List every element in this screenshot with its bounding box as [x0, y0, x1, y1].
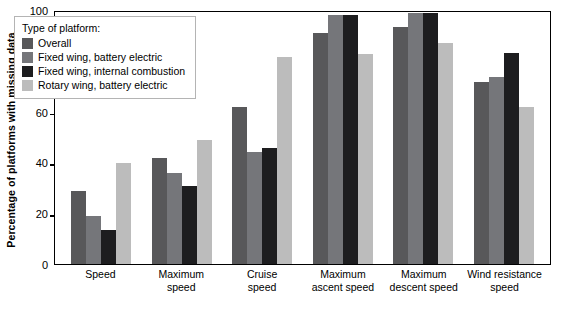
x-axis-tick-label: Maximum ascent speed: [302, 268, 383, 293]
x-axis-tick-label: Speed: [60, 268, 141, 293]
bar: [438, 43, 453, 264]
bar: [519, 107, 534, 264]
bar: [247, 152, 262, 264]
bar-chart: Percentage of platforms with missing dat…: [0, 0, 561, 317]
bar: [277, 57, 292, 264]
bar: [152, 158, 167, 264]
bar: [101, 230, 116, 264]
legend-swatch-icon: [22, 66, 33, 77]
bar: [86, 216, 101, 264]
legend-label: Fixed wing, battery electric: [38, 51, 162, 63]
bar: [116, 163, 131, 264]
y-axis-tick-mark: [50, 164, 55, 165]
bar: [71, 191, 86, 264]
x-axis-tick-label: Maximum descent speed: [383, 268, 464, 293]
y-axis-tick-label: 0: [42, 259, 48, 271]
y-axis-tick-label: 20: [36, 208, 48, 220]
y-axis-tick-mark: [50, 114, 55, 115]
bar: [423, 13, 438, 264]
legend-swatch-icon: [22, 38, 33, 49]
bar: [167, 173, 182, 264]
bar-group: [303, 12, 384, 264]
y-axis-tick-label: 40: [36, 157, 48, 169]
legend-entries: OverallFixed wing, battery electricFixed…: [22, 36, 185, 92]
legend-title: Type of platform:: [22, 22, 185, 34]
bar: [262, 148, 277, 264]
bar: [313, 33, 328, 264]
bar: [504, 53, 519, 264]
bar: [393, 27, 408, 264]
x-axis-tick-label: Wind resistance speed: [464, 268, 545, 293]
legend-swatch-icon: [22, 80, 33, 91]
legend-swatch-icon: [22, 52, 33, 63]
legend-entry: Overall: [22, 36, 185, 50]
legend: Type of platform: OverallFixed wing, bat…: [14, 16, 196, 99]
y-axis-tick-label: 60: [36, 107, 48, 119]
bar: [343, 15, 358, 264]
legend-entry: Fixed wing, internal combustion: [22, 64, 185, 78]
x-axis-tick-label: Maximum speed: [141, 268, 222, 293]
legend-entry: Rotary wing, battery electric: [22, 78, 185, 92]
bar: [408, 13, 423, 264]
bar: [358, 54, 373, 264]
y-axis-tick-mark: [50, 215, 55, 216]
x-axis-tick-labels: SpeedMaximum speedCruise speedMaximum as…: [54, 268, 551, 293]
x-axis-tick-label: Cruise speed: [222, 268, 303, 293]
bar: [182, 186, 197, 264]
legend-entry: Fixed wing, battery electric: [22, 50, 185, 64]
bar: [197, 140, 212, 264]
legend-label: Overall: [38, 37, 71, 49]
bar: [232, 107, 247, 264]
bar: [328, 15, 343, 264]
legend-label: Fixed wing, internal combustion: [38, 65, 185, 77]
bar-group: [464, 12, 545, 264]
bar: [489, 77, 504, 264]
legend-label: Rotary wing, battery electric: [38, 79, 168, 91]
bar: [474, 82, 489, 264]
bar-group: [383, 12, 464, 264]
bar-group: [222, 12, 303, 264]
